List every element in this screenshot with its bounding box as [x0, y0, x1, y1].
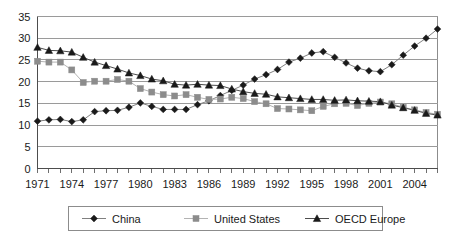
plot-frame	[38, 17, 438, 169]
data-point	[172, 93, 178, 99]
data-point	[286, 106, 292, 112]
data-point	[275, 106, 281, 112]
data-point	[217, 96, 223, 102]
y-tick-label: 20	[18, 76, 30, 88]
plot-area	[38, 17, 438, 169]
x-tick-label: 1974	[60, 178, 84, 190]
data-point	[69, 67, 75, 73]
data-point	[115, 76, 121, 82]
y-tick-label: 25	[18, 54, 30, 66]
y-tick-label: 15	[18, 97, 30, 109]
data-point	[240, 96, 246, 102]
x-tick-label: 1992	[265, 178, 289, 190]
y-tick-label: 0	[24, 163, 30, 175]
data-point	[126, 78, 132, 84]
data-point	[103, 78, 109, 84]
data-point	[92, 78, 98, 84]
data-point	[35, 58, 41, 64]
x-tick-label: 2004	[402, 178, 426, 190]
legend-label: United States	[214, 213, 281, 225]
x-tick-label: 1983	[162, 178, 186, 190]
legend-marker	[193, 216, 199, 222]
legend-label: China	[112, 213, 142, 225]
x-tick-label: 1977	[94, 178, 118, 190]
x-tick-label: 1989	[231, 178, 255, 190]
data-point	[297, 107, 303, 113]
y-tick-label: 35	[18, 11, 30, 23]
data-point	[252, 99, 258, 105]
data-point	[149, 89, 155, 95]
data-point	[46, 59, 52, 65]
chart-legend: ChinaUnited StatesOECD Europe	[69, 207, 406, 231]
data-point	[206, 96, 212, 102]
data-point	[137, 86, 143, 92]
y-tick-label: 10	[18, 119, 30, 131]
chart-canvas: 05101520253035 1971197419771980198319861…	[0, 0, 451, 239]
data-point	[183, 92, 189, 98]
data-point	[195, 94, 201, 100]
y-tick-label: 5	[24, 141, 30, 153]
data-point	[229, 94, 235, 100]
legend-label: OECD Europe	[335, 213, 405, 225]
x-tick-label: 1998	[334, 178, 358, 190]
data-point	[160, 92, 166, 98]
line-chart: 05101520253035 1971197419771980198319861…	[0, 0, 451, 239]
data-point	[80, 80, 86, 86]
x-tick-label: 1971	[25, 178, 49, 190]
data-point	[57, 59, 63, 65]
data-point	[263, 101, 269, 107]
x-tick-label: 2001	[368, 178, 392, 190]
data-point	[309, 108, 315, 114]
x-tick-label: 1995	[300, 178, 324, 190]
y-tick-label: 30	[18, 32, 30, 44]
x-tick-label: 1986	[197, 178, 221, 190]
data-point	[320, 103, 326, 109]
x-tick-label: 1980	[128, 178, 152, 190]
